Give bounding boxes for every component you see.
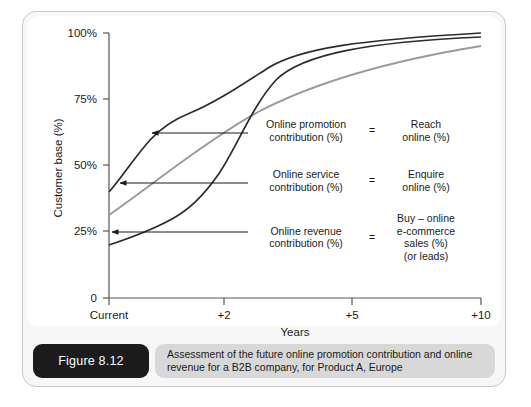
annotation-promotion-rhs-line2: online (%) xyxy=(402,131,449,143)
annotation-revenue-rhs-line1: Buy – online xyxy=(397,212,455,224)
annotation-service: Online service contribution (%) = Enquir… xyxy=(250,168,470,193)
x-tick-label-current: Current xyxy=(90,309,129,321)
y-tick-label-75: 75% xyxy=(74,93,97,105)
annotation-promotion-lhs: Online promotion contribution (%) xyxy=(250,118,362,143)
annotation-revenue-equals: = xyxy=(362,231,382,244)
annotation-service-rhs-line1: Enquire xyxy=(408,168,444,180)
x-tick-label-plus5: +5 xyxy=(345,309,358,321)
annotation-promotion-lhs-line2: contribution (%) xyxy=(269,131,343,143)
annotation-service-lhs-line2: contribution (%) xyxy=(269,181,343,193)
y-ticks xyxy=(103,33,109,298)
annotation-service-rhs-line2: online (%) xyxy=(402,181,449,193)
annotation-revenue-rhs-line2: e-commerce xyxy=(397,225,455,237)
figure-root: 100% 75% 50% 25% 0 Current +2 +5 +10 Yea… xyxy=(0,0,531,407)
y-axis-title: Customer base (%) xyxy=(52,118,64,217)
annotation-promotion-rhs-line1: Reach xyxy=(411,118,441,130)
annotation-service-lhs-line1: Online service xyxy=(273,168,340,180)
annotation-revenue: Online revenue contribution (%) = Buy – … xyxy=(250,212,470,262)
annotation-service-lhs: Online service contribution (%) xyxy=(250,168,362,193)
y-tick-label-25: 25% xyxy=(74,225,97,237)
annotation-service-equals: = xyxy=(362,174,382,187)
y-tick-label-100: 100% xyxy=(68,27,97,39)
annotation-service-rhs: Enquire online (%) xyxy=(382,168,470,193)
annotation-promotion-equals: = xyxy=(362,124,382,137)
caption-row: Figure 8.12 Assessment of the future onl… xyxy=(33,344,495,378)
annotation-promotion-rhs: Reach online (%) xyxy=(382,118,470,143)
annotation-revenue-rhs: Buy – online e-commerce sales (%) (or le… xyxy=(382,212,470,262)
figure-caption-text: Assessment of the future online promotio… xyxy=(167,348,483,374)
annotation-revenue-rhs-line4: (or leads) xyxy=(404,250,448,262)
annotation-promotion: Online promotion contribution (%) = Reac… xyxy=(250,118,470,143)
annotation-revenue-rhs-line3: sales (%) xyxy=(404,237,448,249)
x-ticks xyxy=(109,298,481,305)
annotation-promotion-lhs-line1: Online promotion xyxy=(266,118,346,130)
x-tick-label-plus10: +10 xyxy=(471,309,491,321)
x-tick-label-plus2: +2 xyxy=(217,309,230,321)
y-tick-label-0: 0 xyxy=(91,292,97,304)
figure-number-badge: Figure 8.12 xyxy=(33,344,149,378)
x-axis-title: Years xyxy=(281,326,310,338)
annotation-revenue-lhs: Online revenue contribution (%) xyxy=(250,225,362,250)
figure-caption-box: Assessment of the future online promotio… xyxy=(155,344,495,378)
annotation-revenue-lhs-line1: Online revenue xyxy=(270,225,341,237)
annotation-revenue-lhs-line2: contribution (%) xyxy=(269,237,343,249)
y-tick-label-50: 50% xyxy=(74,159,97,171)
